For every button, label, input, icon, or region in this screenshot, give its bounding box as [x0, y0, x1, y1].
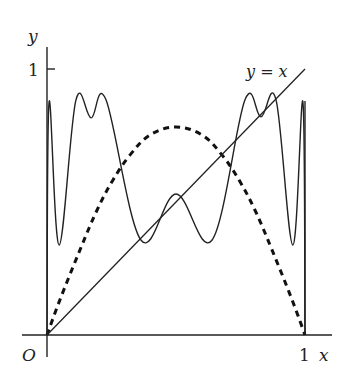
x-tick-label-1: 1: [299, 345, 310, 365]
origin-label: O: [22, 345, 36, 365]
identity-line-label: y = x: [245, 62, 288, 81]
x-axis-label: x: [319, 345, 329, 365]
y-tick-label-1: 1: [28, 60, 39, 80]
y-axis-label: y: [27, 26, 38, 46]
dashed-parabola-curve: [47, 127, 305, 335]
chart: y 1 O 1 x y = x: [0, 0, 343, 379]
third-iterate-curve: [47, 93, 305, 335]
